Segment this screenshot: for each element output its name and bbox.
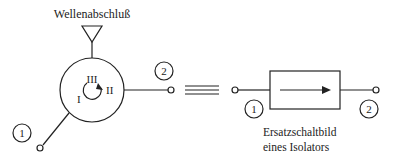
port-label-III: III <box>87 73 98 85</box>
wave-termination-icon <box>82 26 102 42</box>
termination-label: Wellenabschluß <box>54 7 130 21</box>
circulator-circle <box>60 58 124 122</box>
isolator-port-2-number: 2 <box>366 103 372 115</box>
isolator-port-1-number: 1 <box>251 103 257 115</box>
isolator-caption-line1: Ersatzschaltbild <box>263 126 337 138</box>
port-1-number: 1 <box>19 127 25 139</box>
port-2-number: 2 <box>161 65 167 77</box>
direction-arrow-icon <box>322 86 331 94</box>
isolator-diagram: Wellenabschluß III II I 2 1 1 2 Ersatzsc… <box>0 0 395 160</box>
isolator-caption-line2: eines Isolators <box>263 141 330 153</box>
port-label-II: II <box>106 84 114 96</box>
port-label-I: I <box>77 93 81 105</box>
